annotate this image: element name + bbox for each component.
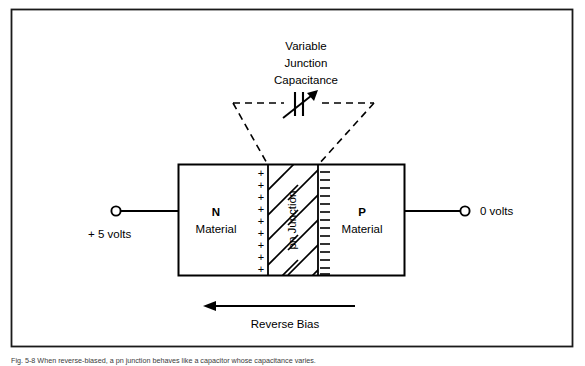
charge-glyph: + <box>258 191 264 203</box>
left-terminal-label: + 5 volts <box>88 228 131 240</box>
charge-glyph: + <box>258 179 264 191</box>
junction-label: pn Junction <box>286 191 298 250</box>
figure-caption: Fig. 5-8 When reverse-biased, a pn junct… <box>11 356 571 366</box>
right-terminal-node <box>460 206 469 215</box>
n-region-type-label: N <box>212 206 220 218</box>
pn-junction-diagram: Variable Junction Capacitance <box>0 0 585 366</box>
charge-glyph: + <box>258 263 264 275</box>
charge-glyph: + <box>258 227 264 239</box>
figure-container: Variable Junction Capacitance <box>0 0 585 366</box>
positive-charge-column: + + + + + + + + + <box>258 167 264 275</box>
callout-title-line-1: Variable <box>285 40 326 52</box>
n-region-material-label: Material <box>196 223 237 235</box>
charge-glyph: + <box>258 167 264 179</box>
left-terminal-node <box>111 206 120 215</box>
reverse-bias-label: Reverse Bias <box>251 318 320 330</box>
charge-glyph: + <box>258 251 264 263</box>
callout-title-line-2: Junction <box>285 57 328 69</box>
p-region-material-label: Material <box>342 223 383 235</box>
charge-glyph: + <box>258 203 264 215</box>
charge-glyph: + <box>258 215 264 227</box>
callout-title-line-3: Capacitance <box>274 74 338 86</box>
charge-glyph: + <box>258 239 264 251</box>
right-terminal-label: 0 volts <box>480 205 513 217</box>
p-region-type-label: P <box>358 206 366 218</box>
